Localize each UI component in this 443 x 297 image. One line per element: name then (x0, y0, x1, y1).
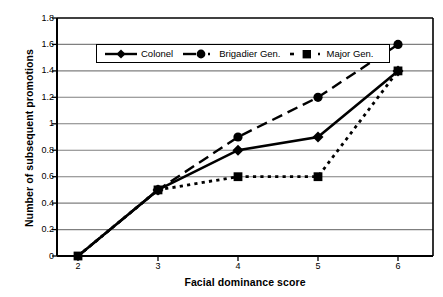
square-marker-icon (289, 48, 323, 60)
legend-entry-colonel: Colonel (104, 48, 182, 60)
cut-off-caption (8, 291, 438, 297)
legend-label-colonel: Colonel (141, 49, 173, 59)
x-tick-label: 6 (378, 261, 418, 271)
diamond-marker-icon (104, 48, 138, 60)
x-axis-title: Facial dominance score (57, 276, 433, 288)
x-tick-label: 3 (138, 261, 178, 271)
legend-label-major-gen: Major Gen. (326, 49, 373, 59)
chart-legend: Colonel Brigadier Gen. Major Gen. (96, 44, 390, 63)
circle-marker-icon (182, 48, 216, 60)
x-tick-label: 5 (298, 261, 338, 271)
legend-entry-brigadier-gen: Brigadier Gen. (182, 48, 289, 60)
y-axis-title: Number of subsequent promotions (23, 13, 35, 263)
line-chart: 0 0.2 0.4 0.6 0.8 1 1.2 1.4 1.6 1.8 2 3 … (0, 0, 443, 297)
x-tick-label: 4 (218, 261, 258, 271)
legend-entry-major-gen: Major Gen. (289, 48, 382, 60)
x-tick-label: 2 (58, 261, 98, 271)
legend-label-brigadier-gen: Brigadier Gen. (219, 49, 280, 59)
